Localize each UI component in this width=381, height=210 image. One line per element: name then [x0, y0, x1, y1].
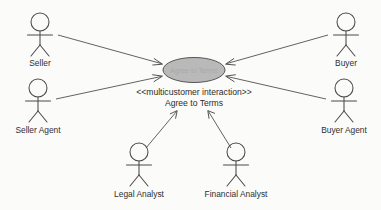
usecase-inner-label: Agree to Terms: [170, 67, 218, 75]
association-legal-analyst: [146, 111, 177, 148]
actor-financial-analyst[interactable]: Financial Analyst: [205, 143, 269, 199]
association-financial-analyst: [208, 111, 231, 148]
actor-buyer-agent[interactable]: Buyer Agent: [321, 79, 367, 135]
actor-leg-right-icon: [346, 45, 355, 56]
actor-leg-right-icon: [38, 111, 47, 122]
actor-leg-left-icon: [130, 175, 139, 186]
actor-leg-left-icon: [29, 111, 38, 122]
usecase-node[interactable]: Agree to Terms: [163, 58, 225, 83]
diagram-canvas: Agree to Terms <<multicustomer interacti…: [0, 0, 381, 210]
actor-label-legal-analyst: Legal Analyst: [114, 189, 164, 199]
actor-head-icon: [130, 143, 148, 161]
association-seller: [58, 35, 163, 65]
actor-seller[interactable]: Seller: [28, 13, 53, 68]
actor-leg-right-icon: [139, 175, 148, 186]
uml-use-case-diagram: Agree to Terms <<multicustomer interacti…: [0, 0, 381, 210]
actor-seller-agent[interactable]: Seller Agent: [15, 79, 61, 135]
association-line-seller: [58, 35, 161, 64]
actor-leg-right-icon: [40, 45, 49, 56]
actor-label-buyer-agent: Buyer Agent: [321, 125, 367, 135]
actor-label-buyer: Buyer: [335, 58, 357, 68]
actor-head-icon: [31, 13, 49, 31]
actor-head-icon: [337, 13, 355, 31]
actor-label-seller-agent: Seller Agent: [15, 125, 61, 135]
actor-leg-left-icon: [335, 111, 344, 122]
actor-leg-left-icon: [337, 45, 346, 56]
actor-leg-right-icon: [236, 175, 245, 186]
actor-label-financial-analyst: Financial Analyst: [205, 189, 269, 199]
actor-legal-analyst[interactable]: Legal Analyst: [114, 143, 164, 199]
actor-head-icon: [335, 79, 353, 97]
association-buyer: [226, 35, 328, 65]
association-line-financial-analyst: [209, 112, 232, 149]
actor-buyer[interactable]: Buyer: [334, 13, 359, 68]
actor-leg-right-icon: [344, 111, 353, 122]
actor-leg-left-icon: [31, 45, 40, 56]
association-line-buyer: [227, 35, 328, 64]
actor-head-icon: [29, 79, 47, 97]
actor-leg-left-icon: [227, 175, 236, 186]
association-line-legal-analyst: [146, 112, 177, 149]
actor-head-icon: [227, 143, 245, 161]
usecase-stereotype-label: <<multicustomer interaction>>: [136, 87, 252, 97]
usecase-name-label: Agree to Terms: [165, 98, 223, 108]
actor-label-seller: Seller: [29, 58, 51, 68]
